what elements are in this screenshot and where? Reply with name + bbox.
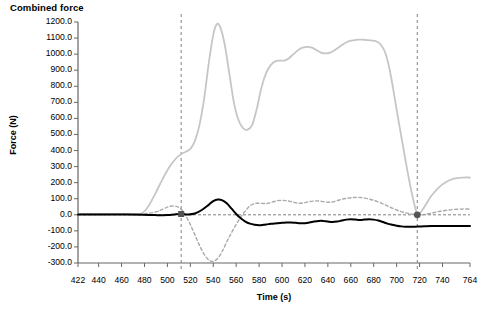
data-point-marker-square: [178, 211, 184, 217]
plot-area: [0, 0, 481, 311]
series-line-vertical-force: [78, 24, 470, 215]
series-line-horizontal-force: [78, 197, 470, 261]
combined-force-chart: Combined force Force (N) Time (s) 1200.0…: [0, 0, 481, 311]
data-point-marker-circle: [414, 211, 421, 218]
